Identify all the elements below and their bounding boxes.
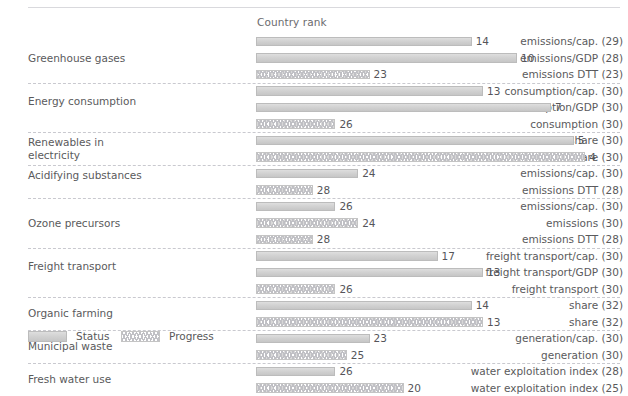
progress-bar: [256, 317, 483, 327]
axis-title-country-rank: Country rank: [257, 16, 327, 28]
chart-row: share (32)14: [0, 297, 628, 314]
bar-value-label: 10: [521, 50, 534, 67]
bar-value-label: 14: [476, 297, 489, 314]
status-bar: [256, 251, 438, 261]
progress-bar: [256, 350, 347, 360]
status-bar: [256, 103, 551, 113]
bar-value-label: 5: [578, 132, 585, 149]
legend-label-status: Status: [76, 330, 109, 342]
chart-row: water exploitation index (28)26: [0, 363, 628, 380]
status-bar: [256, 202, 335, 212]
bar-area: 26: [256, 281, 628, 298]
bar-area: 28: [256, 182, 628, 199]
status-bar: [256, 301, 472, 311]
chart-plot-area: Greenhouse gasesemissions/cap. (29)14emi…: [0, 33, 628, 323]
chart-row: freight transport/GDP (30)13: [0, 264, 628, 281]
indicator-group: Ozone precursorsemissions/cap. (30)26emi…: [0, 198, 628, 248]
chart-row: share (30)4: [0, 149, 628, 166]
chart-row: emissions/GDP (28)10: [0, 50, 628, 67]
status-bar: [256, 367, 335, 377]
bar-value-label: 14: [476, 33, 489, 50]
progress-bar: [256, 185, 313, 195]
bar-area: 14: [256, 297, 628, 314]
bar-value-label: 28: [317, 231, 330, 248]
bar-value-label: 26: [339, 363, 352, 380]
bar-value-label: 13: [487, 264, 500, 281]
progress-bar: [256, 152, 585, 162]
status-bar: [256, 136, 574, 146]
chart-row: water exploitation index (25)20: [0, 380, 628, 396]
chart-row: emissions DTT (28)28: [0, 231, 628, 248]
legend-item-progress: Progress: [121, 330, 214, 342]
bar-value-label: 23: [374, 66, 387, 83]
status-bar: [256, 268, 483, 278]
chart-row: consumption/GDP (30)7: [0, 99, 628, 116]
bar-area: 13: [256, 83, 628, 100]
chart-row: emissions (30)24: [0, 215, 628, 232]
progress-bar: [256, 235, 313, 245]
status-bar-swatch-icon: [28, 331, 67, 342]
bar-value-label: 24: [362, 215, 375, 232]
bar-area: 17: [256, 248, 628, 265]
bar-value-label: 26: [339, 116, 352, 133]
indicator-group: Fresh water usewater exploitation index …: [0, 363, 628, 396]
bar-area: 20: [256, 380, 628, 396]
progress-bar: [256, 70, 370, 80]
bar-value-label: 26: [339, 198, 352, 215]
chart-legend: Status Progress: [0, 330, 628, 350]
bar-area: 13: [256, 264, 628, 281]
progress-bar-swatch-icon: [121, 331, 160, 342]
bar-area: 10: [256, 50, 628, 67]
bar-area: 26: [256, 198, 628, 215]
chart-row: emissions/cap. (29)14: [0, 33, 628, 50]
chart-row: freight transport/cap. (30)17: [0, 248, 628, 265]
bar-area: 4: [256, 149, 628, 166]
chart-row: freight transport (30)26: [0, 281, 628, 298]
bar-value-label: 7: [555, 99, 562, 116]
bar-area: 14: [256, 33, 628, 50]
indicator-group: Organic farmingshare (32)14share (32)13: [0, 297, 628, 330]
legend-label-progress: Progress: [169, 330, 214, 342]
chart-row: share (32)13: [0, 314, 628, 331]
bar-area: 26: [256, 363, 628, 380]
bar-value-label: 4: [589, 149, 596, 166]
bar-value-label: 26: [339, 281, 352, 298]
bar-area: 28: [256, 231, 628, 248]
bar-value-label: 28: [317, 182, 330, 199]
indicator-group: Freight transportfreight transport/cap. …: [0, 248, 628, 298]
status-bar: [256, 37, 472, 47]
status-bar: [256, 86, 483, 96]
status-bar: [256, 53, 517, 63]
top-divider: [28, 7, 620, 8]
chart-row: emissions DTT (28)28: [0, 182, 628, 199]
progress-bar: [256, 218, 358, 228]
bar-area: 26: [256, 116, 628, 133]
chart-row: emissions/cap. (30)26: [0, 198, 628, 215]
bar-area: 23: [256, 66, 628, 83]
bar-area: 24: [256, 215, 628, 232]
chart-row: share (30)5: [0, 132, 628, 149]
indicator-group: Renewables in electricityshare (30)5shar…: [0, 132, 628, 165]
bar-value-label: 13: [487, 83, 500, 100]
bar-value-label: 17: [442, 248, 455, 265]
bar-area: 24: [256, 165, 628, 182]
bar-value-label: 13: [487, 314, 500, 331]
chart-row: consumption/cap. (30)13: [0, 83, 628, 100]
bar-area: 5: [256, 132, 628, 149]
bar-value-label: 24: [362, 165, 375, 182]
bar-area: 13: [256, 314, 628, 331]
progress-bar: [256, 119, 335, 129]
progress-bar: [256, 284, 335, 294]
chart-row: consumption (30)26: [0, 116, 628, 133]
indicator-group: Energy consumptionconsumption/cap. (30)1…: [0, 83, 628, 133]
bar-value-label: 20: [408, 380, 421, 396]
progress-bar: [256, 383, 404, 393]
bar-area: 7: [256, 99, 628, 116]
indicator-group: Greenhouse gasesemissions/cap. (29)14emi…: [0, 33, 628, 83]
indicator-group: Acidifying substancesemissions/cap. (30)…: [0, 165, 628, 198]
legend-item-status: Status: [28, 330, 109, 342]
chart-row: emissions/cap. (30)24: [0, 165, 628, 182]
chart-row: emissions DTT (23)23: [0, 66, 628, 83]
status-bar: [256, 169, 358, 179]
